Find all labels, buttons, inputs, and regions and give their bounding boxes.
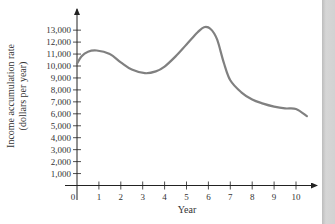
y-tick-label: 10,000 <box>46 61 71 71</box>
page-edge-scrollbar <box>322 0 335 224</box>
x-tick-label: 6 <box>206 192 211 202</box>
x-tick-label: 9 <box>272 192 277 202</box>
x-tick-label: 0 <box>71 192 76 202</box>
income-rate-curve <box>77 27 307 116</box>
x-tick-label: 4 <box>162 192 167 202</box>
y-tick-label: 13,000 <box>46 25 71 35</box>
y-axis-label: Income accumulation rate <box>5 44 16 148</box>
x-tick-label: 8 <box>250 192 255 202</box>
x-tick-label: 10 <box>292 192 302 202</box>
x-tick-label: 5 <box>184 192 189 202</box>
x-axis-title: Year <box>178 204 197 215</box>
x-tick-label: 2 <box>119 192 124 202</box>
y-tick-label: 5,000 <box>51 121 72 131</box>
y-tick-label: 8,000 <box>51 85 72 95</box>
y-tick-label: 12,000 <box>46 37 71 47</box>
x-tick-label: 3 <box>140 192 145 202</box>
y-tick-label: 11,000 <box>47 49 72 59</box>
y-tick-label: 6,000 <box>51 109 72 119</box>
x-tick-label: 7 <box>228 192 233 202</box>
y-tick-label: 3,000 <box>51 145 72 155</box>
x-axis-label: Year <box>178 204 197 215</box>
data-series <box>77 27 307 116</box>
y-tick-label: 2,000 <box>51 157 72 167</box>
y-axis-label: (dollars per year) <box>17 62 29 131</box>
x-axis: 012345678910 <box>65 182 317 202</box>
y-tick-label: 9,000 <box>51 73 72 83</box>
x-tick-label: 1 <box>97 192 102 202</box>
y-axis-title: Income accumulation rate(dollars per yea… <box>5 44 29 148</box>
y-tick-label: 4,000 <box>51 133 72 143</box>
y-axis: 1,0002,0003,0004,0005,0006,0007,0008,000… <box>46 9 81 200</box>
line-chart: Income accumulation rate(dollars per yea… <box>0 0 335 224</box>
y-tick-label: 7,000 <box>51 97 72 107</box>
y-tick-label: 1,000 <box>51 169 72 179</box>
